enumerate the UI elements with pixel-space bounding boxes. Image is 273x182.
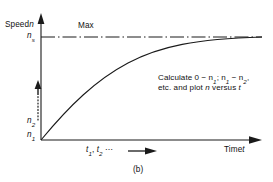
y-tick-n2-base: n — [27, 116, 32, 125]
speed-increment-indicator — [35, 80, 42, 120]
speed-vs-time-figure: Speedn Max ns n2 n1 Calculate 0 − n1; n1… — [0, 0, 273, 182]
x-tick-note: t1, t2 ⋯ — [86, 145, 113, 156]
panel-caption: (b) — [133, 165, 143, 176]
x-axis-label-text: Time — [224, 145, 242, 154]
x-axis-label: Timet — [224, 145, 245, 156]
instruction-annotation-line1: Calculate 0 − n1; n1 − n2, — [158, 73, 249, 83]
x-axis-symbol: t — [242, 145, 244, 154]
instruction-annotation-line2: etc. and plot n versus t — [158, 83, 249, 93]
y-axis-label: Speedn — [5, 20, 34, 31]
max-line-label: Max — [78, 21, 94, 32]
y-axis-symbol: n — [29, 20, 34, 29]
y-tick-ns-base: n — [27, 31, 32, 40]
time-progression-arrow — [128, 148, 157, 155]
y-axis-label-text: Speed — [5, 20, 29, 29]
instruction-annotation: Calculate 0 − n1; n1 − n2, etc. and plot… — [158, 73, 249, 93]
y-axis — [38, 13, 45, 140]
y-tick-label-n2: n2 — [27, 116, 35, 127]
y-tick-n2-sub: 2 — [32, 121, 36, 128]
y-tick-label-n1: n1 — [27, 130, 35, 141]
y-tick-label-ns: ns — [27, 31, 35, 42]
x-axis — [41, 136, 262, 143]
y-tick-ns-sub: s — [32, 36, 35, 43]
y-tick-n1-sub: 1 — [32, 135, 36, 142]
y-tick-n1-base: n — [27, 130, 32, 139]
